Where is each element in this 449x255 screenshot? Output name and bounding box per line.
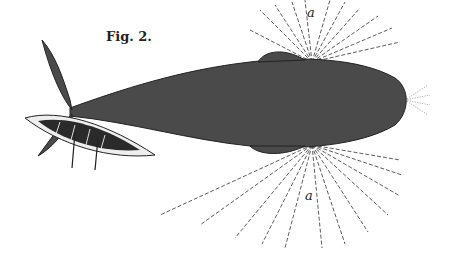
figure-caption: Fig. 2.	[106, 29, 152, 44]
engraving-figure: Fig. 2. a a	[0, 0, 449, 255]
label-a-upper: a	[307, 5, 315, 20]
label-a-lower: a	[305, 188, 313, 203]
whale-illustration	[0, 0, 449, 255]
